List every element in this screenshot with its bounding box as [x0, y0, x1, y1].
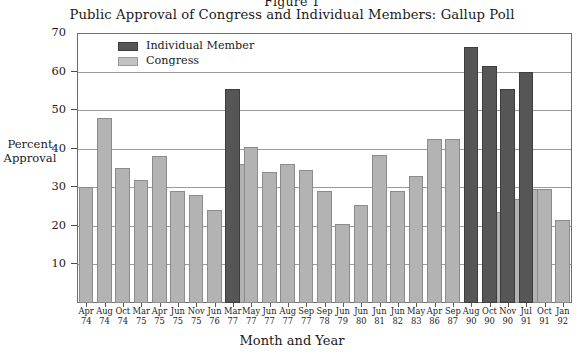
legend-item-individual-member: Individual Member — [118, 39, 254, 53]
bar-individual-member[interactable] — [464, 47, 479, 304]
figure-title: Public Approval of Congress and Individu… — [0, 7, 584, 22]
bar-congress[interactable] — [354, 205, 369, 303]
bar-group[interactable] — [352, 33, 370, 303]
bar-group[interactable] — [260, 33, 278, 303]
bar-group[interactable] — [444, 33, 462, 303]
bar-group[interactable] — [77, 33, 95, 303]
x-axis-labels: Apr74Aug74Oct74Mar75Apr75Jun75Nov75Jun76… — [77, 306, 572, 332]
legend-swatch-congress-icon — [118, 57, 138, 66]
bar-congress[interactable] — [170, 191, 185, 303]
bar-group[interactable] — [315, 33, 333, 303]
y-tick-label: 20 — [40, 220, 66, 231]
bar-individual-member[interactable] — [519, 72, 534, 303]
bar-group[interactable] — [499, 33, 517, 303]
bar-congress[interactable] — [207, 210, 222, 303]
y-tick-label: 40 — [40, 143, 66, 154]
bar-congress[interactable] — [335, 224, 350, 303]
bar-group[interactable] — [407, 33, 425, 303]
bar-congress[interactable] — [372, 155, 387, 304]
bar-group[interactable] — [205, 33, 223, 303]
y-tick-label: 60 — [40, 66, 66, 77]
x-axis-title: Month and Year — [0, 333, 584, 348]
y-tick-label: 70 — [40, 27, 66, 38]
bar-group[interactable] — [187, 33, 205, 303]
bar-group[interactable] — [224, 33, 242, 303]
bar-congress[interactable] — [115, 168, 130, 303]
bar-congress[interactable] — [299, 170, 314, 303]
bar-group[interactable] — [517, 33, 535, 303]
bar-group[interactable] — [425, 33, 443, 303]
bar-congress[interactable] — [280, 164, 295, 303]
bar-group[interactable] — [334, 33, 352, 303]
bar-congress[interactable] — [79, 187, 94, 303]
bar-group[interactable] — [150, 33, 168, 303]
legend-label-congress: Congress — [146, 55, 199, 66]
bar-congress[interactable] — [317, 191, 332, 303]
bar-congress[interactable] — [445, 139, 460, 303]
legend: Individual Member Congress — [118, 39, 254, 69]
bar-congress[interactable] — [244, 147, 259, 303]
bar-congress[interactable] — [390, 191, 405, 303]
bar-congress[interactable] — [427, 139, 442, 303]
bar-group[interactable] — [554, 33, 572, 303]
y-tick-label: 50 — [40, 104, 66, 115]
bar-group[interactable] — [535, 33, 553, 303]
bar-individual-member[interactable] — [482, 66, 497, 303]
bar-congress[interactable] — [537, 189, 552, 303]
bar-individual-member[interactable] — [225, 89, 240, 303]
x-tick-label: Jan92 — [550, 306, 576, 327]
bar-group[interactable] — [279, 33, 297, 303]
bar-group[interactable] — [169, 33, 187, 303]
bar-group[interactable] — [480, 33, 498, 303]
bar-series-layer — [77, 33, 572, 303]
bar-group[interactable] — [389, 33, 407, 303]
bar-congress[interactable] — [262, 172, 277, 303]
bar-group[interactable] — [462, 33, 480, 303]
legend-swatch-member-icon — [118, 42, 138, 51]
x-tick-label-year: 92 — [550, 316, 576, 326]
y-tick-label: 30 — [40, 181, 66, 192]
bar-congress[interactable] — [409, 176, 424, 303]
bar-congress[interactable] — [152, 156, 167, 303]
bar-group[interactable] — [297, 33, 315, 303]
y-tick-label: 10 — [40, 258, 66, 269]
bar-individual-member[interactable] — [500, 89, 515, 303]
bar-congress[interactable] — [555, 220, 570, 303]
bar-group[interactable] — [370, 33, 388, 303]
figure-container: Figure 1 Public Approval of Congress and… — [0, 0, 584, 354]
legend-label-member: Individual Member — [146, 40, 254, 51]
bar-group[interactable] — [242, 33, 260, 303]
bar-congress[interactable] — [134, 180, 149, 303]
legend-item-congress: Congress — [118, 54, 254, 68]
bar-group[interactable] — [114, 33, 132, 303]
x-tick-label-month: Jan — [550, 306, 576, 316]
bar-congress[interactable] — [189, 195, 204, 303]
bar-group[interactable] — [132, 33, 150, 303]
bar-congress[interactable] — [97, 118, 112, 303]
bar-group[interactable] — [95, 33, 113, 303]
